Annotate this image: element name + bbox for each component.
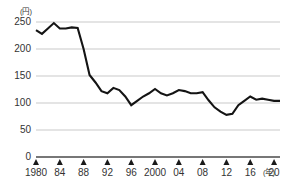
x-tick-marker	[223, 159, 229, 165]
x-tick-marker	[128, 159, 134, 165]
x-tick-label-84: 84	[54, 167, 66, 178]
x-tick-label-12: 12	[221, 167, 233, 178]
x-tick-marker	[57, 159, 63, 165]
x-axis-unit-label: (年)	[263, 167, 275, 177]
x-tick-label-96: 96	[126, 167, 138, 178]
x-tick-label-88: 88	[78, 167, 90, 178]
x-tick-label-04: 04	[173, 167, 185, 178]
x-tick-marker	[176, 159, 182, 165]
x-axis-tick-labels: 19808488929620000408121620	[25, 167, 280, 178]
y-tick-label-250: 250	[14, 16, 31, 27]
data-series-line	[36, 23, 280, 115]
gridlines-group	[36, 22, 280, 130]
x-tick-label-16: 16	[245, 167, 257, 178]
x-tick-label-08: 08	[197, 167, 209, 178]
x-tick-marker	[200, 159, 206, 165]
x-tick-marker	[104, 159, 110, 165]
y-tick-label-0: 0	[25, 151, 31, 162]
x-tick-marker	[247, 159, 253, 165]
x-axis-tick-markers	[33, 159, 277, 165]
x-tick-label-2000: 2000	[144, 167, 167, 178]
x-tick-marker	[271, 159, 277, 165]
chart-canvas: 250 200 150 100 50 0 (円) 198084889296200…	[0, 0, 286, 190]
y-axis-unit-label: (円)	[20, 7, 32, 16]
line-chart-figure: 250 200 150 100 50 0 (円) 198084889296200…	[0, 0, 286, 190]
y-tick-label-100: 100	[14, 97, 31, 108]
x-tick-marker	[81, 159, 87, 165]
x-tick-label-92: 92	[102, 167, 114, 178]
x-tick-marker	[33, 159, 39, 165]
x-tick-label-1980: 1980	[25, 167, 48, 178]
y-tick-label-50: 50	[20, 124, 32, 135]
y-axis-tick-labels: 250 200 150 100 50 0	[14, 16, 31, 162]
x-tick-marker	[152, 159, 158, 165]
y-tick-label-200: 200	[14, 43, 31, 54]
y-tick-label-150: 150	[14, 70, 31, 81]
